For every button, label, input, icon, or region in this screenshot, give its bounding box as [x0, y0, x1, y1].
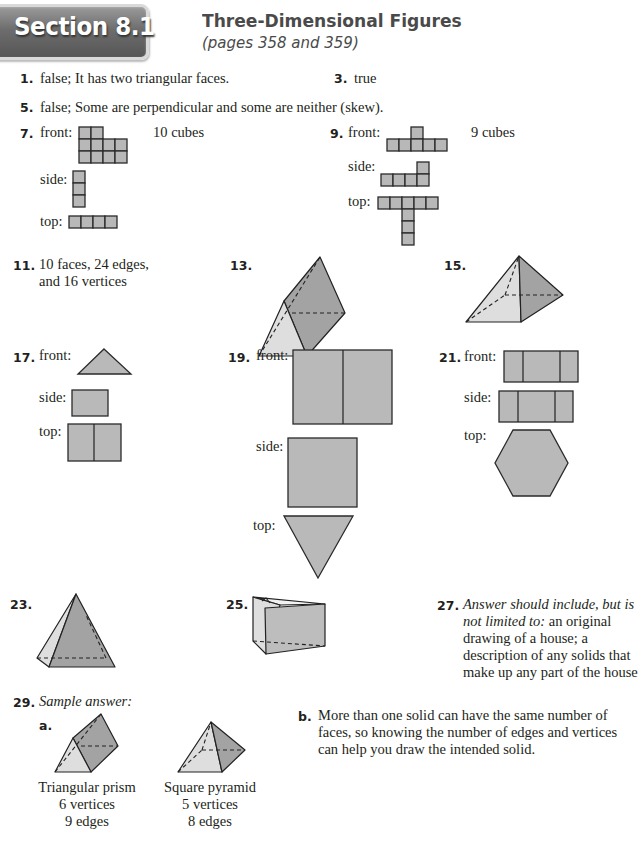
part-b-line1: More than one solid can have the same nu…	[318, 707, 608, 724]
part-b-line3: can help you draw the intended solid.	[318, 741, 535, 758]
solid1-name: Triangular prism	[30, 779, 144, 796]
part-b-label: b.	[298, 709, 312, 724]
solid2-name: Square pyramid	[160, 779, 260, 796]
solid1-vertices: 6 vertices	[30, 796, 144, 813]
solid1-edges: 9 edges	[30, 813, 144, 830]
part-b-line2: faces, so knowing the number of edges an…	[318, 724, 617, 741]
solid2-vertices: 5 vertices	[160, 796, 260, 813]
solid2-edges: 8 edges	[160, 813, 260, 830]
